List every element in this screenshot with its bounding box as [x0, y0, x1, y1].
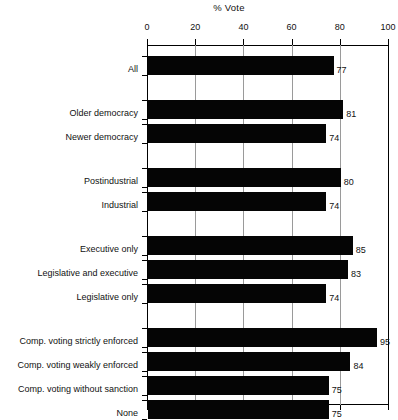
bar — [148, 56, 334, 75]
category-tick-mark — [142, 376, 147, 377]
bar-value-label: 83 — [351, 269, 361, 279]
category-label: Postindustrial — [84, 176, 138, 187]
bar — [148, 168, 341, 187]
category-label: Older democracy — [69, 108, 138, 119]
bar — [148, 352, 350, 371]
bar-value-label: 77 — [337, 65, 347, 75]
bar — [148, 236, 353, 255]
category-tick-mark — [142, 119, 147, 120]
x-tick-label-40: 40 — [238, 22, 248, 32]
category-label: None — [116, 408, 138, 419]
category-tick-mark — [142, 143, 147, 144]
category-label: Comp. voting weakly enforced — [17, 360, 138, 371]
category-tick-mark — [142, 279, 147, 280]
category-tick-mark — [142, 255, 147, 256]
bar-value-label: 74 — [329, 201, 339, 211]
category-tick-mark — [142, 395, 147, 396]
category-tick-mark — [142, 303, 147, 304]
bar — [148, 400, 329, 419]
chart-title: % Vote — [0, 2, 398, 13]
category-label: All — [128, 64, 138, 75]
category-tick-mark — [142, 187, 147, 188]
bar-value-label: 85 — [356, 245, 366, 255]
category-tick-mark — [142, 284, 147, 285]
bar — [148, 260, 348, 279]
x-tick-label-80: 80 — [335, 22, 345, 32]
category-label: Comp. voting without sanction — [18, 384, 138, 395]
bar-value-label: 74 — [329, 293, 339, 303]
category-label: Executive only — [80, 244, 138, 255]
category-tick-mark — [142, 100, 147, 101]
bar — [148, 328, 377, 347]
category-label: Industrial — [101, 200, 138, 211]
x-tick-label-20: 20 — [190, 22, 200, 32]
category-label: Legislative only — [76, 292, 138, 303]
category-axis-labels: AllOlder democracyNewer democracyPostind… — [0, 45, 143, 405]
category-label: Comp. voting strictly enforced — [19, 336, 138, 347]
bar-value-label: 80 — [344, 177, 354, 187]
category-tick-mark — [142, 352, 147, 353]
category-tick-mark — [142, 260, 147, 261]
x-axis-tick-labels: 020406080100 — [147, 22, 388, 36]
bar — [148, 124, 326, 143]
bar — [148, 100, 343, 119]
bar-value-label: 74 — [329, 133, 339, 143]
bar-value-label: 95 — [380, 337, 390, 347]
category-tick-mark — [142, 124, 147, 125]
bars-container: 778174807485837495847575 — [148, 45, 389, 405]
category-tick-mark — [142, 347, 147, 348]
category-tick-mark — [142, 75, 147, 76]
bar-value-label: 84 — [353, 361, 363, 371]
bar — [148, 376, 329, 395]
bar-value-label: 75 — [332, 409, 342, 419]
category-tick-mark — [142, 371, 147, 372]
bar — [148, 284, 326, 303]
category-tick-mark — [142, 211, 147, 212]
bar — [148, 192, 326, 211]
category-label: Newer democracy — [65, 132, 138, 143]
category-label: Legislative and executive — [37, 268, 138, 279]
x-tick-label-60: 60 — [287, 22, 297, 32]
category-tick-mark — [142, 192, 147, 193]
category-tick-mark — [142, 400, 147, 401]
category-tick-mark — [142, 328, 147, 329]
category-tick-mark — [142, 168, 147, 169]
x-tick-mark-bottom-100 — [388, 405, 389, 410]
bar-value-label: 81 — [346, 109, 356, 119]
bar-value-label: 75 — [332, 385, 342, 395]
x-tick-label-100: 100 — [380, 22, 395, 32]
category-tick-mark — [142, 56, 147, 57]
category-tick-mark — [142, 236, 147, 237]
x-tick-label-0: 0 — [144, 22, 149, 32]
